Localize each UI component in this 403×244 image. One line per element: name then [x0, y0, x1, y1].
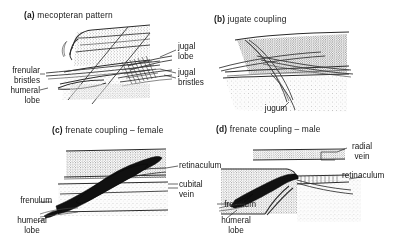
panel-b-artwork: [201, 0, 403, 122]
panel-d-label-radial-vein: radial vein: [340, 142, 384, 161]
panel-a-label-humeral-lobe: humeral lobe: [4, 86, 40, 105]
panel-d-label-retinaculum: retinaculum: [342, 171, 384, 181]
panel-c-label-humeral-lobe: humeral lobe: [6, 216, 58, 235]
panel-c-label-frenulum: frenulum: [2, 196, 52, 206]
panel-c-label-cubital-vein: cubital vein: [179, 180, 203, 199]
wing-coupling-figure: (a) mecopteran pattern: [0, 0, 403, 244]
panel-d-label-frenulum: frenulum: [206, 200, 256, 210]
panel-b-label-jugum: jugum: [252, 104, 300, 114]
panel-d-label-humeral-lobe: humeral lobe: [210, 216, 262, 235]
panel-a-label-jugal-lobe: jugal lobe: [178, 42, 195, 61]
panel-a-label-frenular-bristles: frenular bristles: [4, 66, 40, 85]
